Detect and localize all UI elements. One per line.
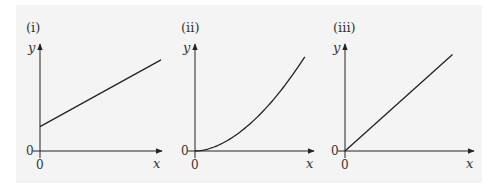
series-line xyxy=(345,55,453,151)
panel-label: (iii) xyxy=(333,20,356,35)
panel-iii: (iii) y x 0 0 xyxy=(331,20,474,172)
series-curve xyxy=(195,57,305,151)
x-origin-label: 0 xyxy=(341,158,349,172)
x-axis-label: x xyxy=(153,156,161,171)
y-axis-label: y xyxy=(182,40,191,55)
x-axis-label: x xyxy=(306,156,314,171)
x-origin-label: 0 xyxy=(36,158,44,172)
panel-i: (i) y x 0 0 xyxy=(26,20,162,172)
panel-label: (ii) xyxy=(181,20,199,35)
y-axis-label: y xyxy=(332,40,341,55)
panel-ii: (ii) y x 0 0 xyxy=(181,20,314,172)
y-origin-label: 0 xyxy=(26,144,34,158)
y-origin-label: 0 xyxy=(331,144,339,158)
figure-canvas: (i) y x 0 0 (ii) y x 0 0 (iii) y x 0 0 xyxy=(0,0,496,189)
panel-label: (i) xyxy=(26,20,40,35)
series-line xyxy=(40,60,161,127)
y-origin-label: 0 xyxy=(181,144,189,158)
x-origin-label: 0 xyxy=(191,158,199,172)
x-axis-label: x xyxy=(466,156,474,171)
y-axis-label: y xyxy=(27,40,36,55)
